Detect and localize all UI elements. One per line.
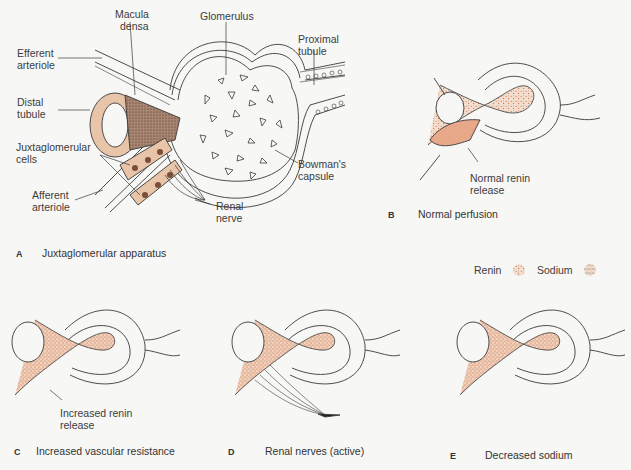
label-afferent-arteriole-2: arteriole [32,201,70,213]
panel-d-caption: Renal nerves (active) [265,445,364,457]
sodium-swatch-icon [584,264,596,276]
panel-e-letter: E [450,451,456,461]
label-distal-tubule-2: tubule [17,108,46,120]
label-juxtaglomerular-cells-1: Juxtaglomerular [16,141,91,153]
panel-a-caption: Juxtaglomerular apparatus [42,247,166,259]
panel-d-illustration [232,310,400,417]
diagram-canvas [0,0,631,470]
label-glomerulus: Glomerulus [200,10,254,22]
panel-b-letter: B [388,210,395,220]
panel-c-annotation-2: release [60,419,94,431]
panel-c-letter: C [14,447,21,457]
legend-renin-label: Renin [474,264,501,276]
renin-swatch-icon [513,264,525,276]
panel-c-illustration [12,310,180,400]
label-macula-densa-2: densa [120,20,149,32]
label-macula-densa-1: Macula [115,8,149,20]
panel-d-letter: D [228,447,235,457]
label-renal-nerve-2: nerve [216,212,242,224]
panel-c-caption: Increased vascular resistance [36,445,175,457]
label-juxtaglomerular-cells-2: cells [16,153,37,165]
label-distal-tubule-1: Distal [17,96,43,108]
label-bowmans-capsule-1: Bowman's [298,158,346,170]
panel-b-annotation-2: release [470,184,504,196]
panel-c-annotation-1: Increased renin [60,407,132,419]
label-proximal-tubule-2: tubule [298,45,327,57]
label-bowmans-capsule-2: capsule [298,170,334,182]
panel-a-letter: A [16,249,23,259]
panel-b-illustration [420,63,600,180]
label-afferent-arteriole-1: Afferent [32,189,69,201]
panel-e-caption: Decreased sodium [485,449,573,461]
label-efferent-arteriole-2: arteriole [17,59,55,71]
label-proximal-tubule-1: Proximal [298,33,339,45]
panel-e-illustration [457,310,625,395]
legend-sodium-label: Sodium [537,264,573,276]
label-efferent-arteriole-1: Efferent [17,47,54,59]
panel-b-caption: Normal perfusion [418,208,498,220]
panel-b-annotation-1: Normal renin [470,172,530,184]
label-renal-nerve-1: Renal [216,200,243,212]
